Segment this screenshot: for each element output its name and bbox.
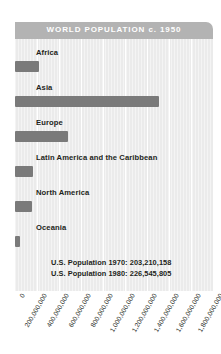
bar <box>15 201 32 212</box>
x-tick-label: 0 <box>18 292 26 299</box>
category-label: Africa <box>36 48 58 57</box>
x-tick-label: 600,000,000 <box>67 292 92 328</box>
gridline <box>125 39 126 291</box>
plot-area: AfricaAsiaEuropeLatin America and the Ca… <box>15 39 213 291</box>
gridline <box>59 39 60 291</box>
x-tick-label: 800,000,000 <box>89 292 114 328</box>
bar <box>15 96 159 107</box>
gridline <box>191 39 192 291</box>
x-tick-label: 200,000,000 <box>23 292 48 328</box>
category-label: Europe <box>36 118 63 127</box>
bar <box>15 61 39 72</box>
gridline <box>81 39 82 291</box>
annotation-text: U.S. Population 1970: 203,210,158 <box>51 258 171 267</box>
chart-title-bar: WORLD POPULATION c. 1950 <box>15 22 213 39</box>
gridline <box>37 39 38 291</box>
paper-texture <box>15 39 213 291</box>
category-label: Oceania <box>36 223 66 232</box>
category-label: Latin America and the Caribbean <box>36 153 157 162</box>
gridline <box>103 39 104 291</box>
annotation-text: U.S. Population 1980: 226,545,805 <box>51 269 171 278</box>
bar <box>15 236 20 247</box>
category-label: Asia <box>36 83 52 92</box>
category-label: North America <box>36 188 89 197</box>
gridline <box>169 39 170 291</box>
gridline <box>147 39 148 291</box>
page-title: WORLD POPULATION c. 1950 <box>15 25 213 34</box>
x-axis-tick-labels: 0200,000,000400,000,000600,000,000800,00… <box>15 292 213 354</box>
population-bar-chart: WORLD POPULATION c. 1950 AfricaAsiaEurop… <box>0 0 221 354</box>
x-tick-label: 400,000,000 <box>45 292 70 328</box>
bar <box>15 131 68 142</box>
bar <box>15 166 33 177</box>
